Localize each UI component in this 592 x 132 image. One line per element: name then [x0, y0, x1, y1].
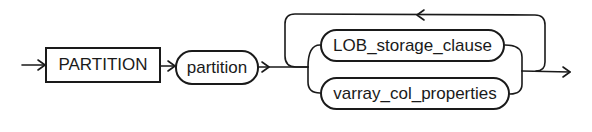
keyword-label: PARTITION — [58, 55, 147, 75]
syntax-diagram: PARTITION partition LOB_storage_clause v… — [0, 0, 592, 132]
choice-label: varray_col_properties — [333, 84, 496, 104]
choice-lob-storage-clause-pill: LOB_storage_clause — [320, 29, 505, 62]
choice-varray-col-properties-pill: varray_col_properties — [320, 77, 510, 110]
keyword-partition-box: PARTITION — [45, 47, 161, 83]
nonterminal-partition-pill: partition — [175, 50, 259, 85]
nonterminal-label: partition — [187, 58, 247, 78]
exit-line — [522, 71, 570, 72]
choice-label: LOB_storage_clause — [333, 36, 492, 56]
